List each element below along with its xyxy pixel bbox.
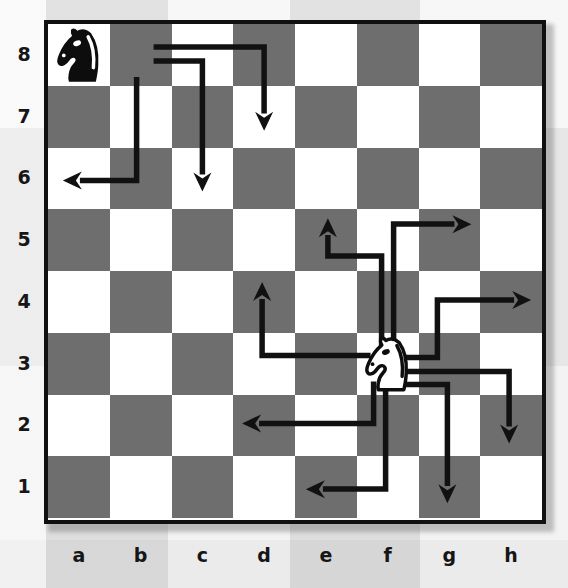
arrow-f3-h4 [400, 291, 532, 358]
rank-label-7: 7 [12, 107, 36, 126]
file-label-d: d [249, 546, 279, 565]
chessboard[interactable] [44, 20, 546, 524]
rank-label-4: 4 [12, 292, 36, 311]
rank-label-3: 3 [12, 354, 36, 373]
chessboard-wrapper [44, 20, 550, 528]
rank-label-5: 5 [12, 230, 36, 249]
file-label-f: f [373, 546, 403, 565]
arrow-f3-d2 [242, 382, 373, 433]
file-label-a: a [64, 546, 94, 565]
file-label-h: h [496, 546, 526, 565]
black-knight[interactable] [58, 29, 97, 81]
rank-label-2: 2 [12, 415, 36, 434]
arrow-f3-d4 [253, 282, 370, 356]
file-label-g: g [434, 546, 464, 565]
file-label-c: c [187, 546, 217, 565]
chess-diagram: 87654321 abcdefgh [0, 0, 568, 588]
file-label-b: b [126, 546, 156, 565]
rank-label-8: 8 [12, 45, 36, 64]
arrow-b8-c6 [154, 61, 212, 191]
arrow-f3-e5 [319, 218, 382, 349]
move-arrows-overlay [48, 24, 542, 520]
rank-label-6: 6 [12, 168, 36, 187]
arrow-f3-g1 [406, 385, 457, 504]
rank-label-1: 1 [12, 477, 36, 496]
file-label-e: e [311, 546, 341, 565]
arrow-f3-g5 [394, 215, 472, 347]
arrow-b8-a6 [63, 77, 137, 189]
